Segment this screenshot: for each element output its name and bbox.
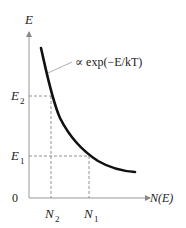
origin-label: 0 [12, 191, 18, 205]
boltzmann-distribution-diagram: E N(E) 0 ∝ exp(−E/kT) E 2 E 1 N 2 N 1 [0, 0, 186, 228]
y-tick-e1: E 1 [10, 148, 25, 166]
curve-label-leader [48, 62, 72, 73]
svg-text:N: N [83, 206, 94, 221]
x-tick-n2: N 2 [44, 206, 60, 224]
y-axis-label: E [24, 12, 33, 27]
svg-text:N: N [44, 206, 55, 221]
y-tick-e2: E 2 [10, 88, 25, 106]
svg-text:1: 1 [20, 156, 25, 166]
x-axis-label: N(E) [149, 191, 173, 205]
svg-text:E: E [10, 88, 19, 103]
svg-text:2: 2 [55, 214, 60, 224]
svg-text:E: E [10, 148, 19, 163]
svg-text:2: 2 [20, 96, 25, 106]
curve-label: ∝ exp(−E/kT) [75, 55, 142, 69]
x-tick-n1: N 1 [83, 206, 99, 224]
svg-text:1: 1 [94, 214, 99, 224]
